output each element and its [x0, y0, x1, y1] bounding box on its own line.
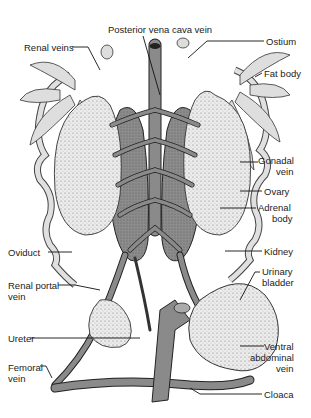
- ostium-right: [177, 38, 189, 48]
- label-femoral-vein-line2: vein: [8, 373, 43, 384]
- ovary-right: [184, 91, 251, 235]
- label-renal-portal-vein: Renal portal vein: [8, 280, 59, 302]
- vena-cava-opening: [150, 43, 161, 49]
- label-renal-veins: Renal veins: [24, 42, 74, 53]
- label-posterior-vena-cava-vein: Posterior vena cava vein: [108, 24, 212, 35]
- label-oviduct: Oviduct: [8, 247, 40, 258]
- label-ventral-abdominal-vein-line3: vein: [250, 363, 294, 374]
- label-renal-portal-vein-line1: Renal portal: [8, 280, 59, 291]
- label-cloaca: Cloaca: [264, 389, 294, 400]
- frog-urogenital-diagram: Posterior vena cava vein Renal veins Ost…: [0, 0, 311, 418]
- urinary-bladder-left: [89, 300, 132, 348]
- label-ventral-abdominal-vein-line1: Ventral: [250, 341, 294, 352]
- label-urinary-bladder-line2: bladder: [262, 277, 294, 288]
- label-urinary-bladder: Urinary bladder: [262, 266, 294, 288]
- label-gonadal-vein-line2: vein: [258, 166, 310, 177]
- ostium-left: [101, 45, 113, 59]
- label-renal-portal-vein-line2: vein: [8, 291, 59, 302]
- label-ovary: Ovary: [264, 186, 289, 197]
- label-ventral-abdominal-vein: Ventral abdominal vein: [250, 341, 294, 374]
- label-adrenal-body-line2: body: [258, 213, 293, 224]
- label-ventral-abdominal-vein-line2: abdominal: [250, 352, 294, 363]
- label-ureter: Ureter: [8, 333, 34, 344]
- label-femoral-vein: Femoral vein: [8, 362, 43, 384]
- label-gonadal-vein-line1: Gonadal: [258, 155, 310, 166]
- label-adrenal-body-line1: Adrenal: [258, 202, 293, 213]
- label-ostium: Ostium: [266, 36, 296, 47]
- label-urinary-bladder-line1: Urinary: [262, 266, 294, 277]
- label-kidney: Kidney: [264, 246, 293, 257]
- label-adrenal-body: Adrenal body: [258, 202, 293, 224]
- label-fat-body: Fat body: [264, 68, 301, 79]
- ovary-left: [54, 96, 121, 235]
- label-gonadal-vein: Gonadal vein: [258, 155, 310, 177]
- label-femoral-vein-line1: Femoral: [8, 362, 43, 373]
